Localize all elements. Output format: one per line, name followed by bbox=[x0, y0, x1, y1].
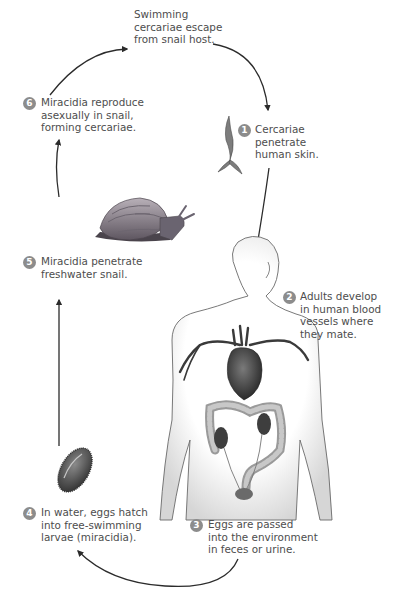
schistosoma-life-cycle-diagram: Swimming cercariae escape from snail hos… bbox=[0, 0, 394, 607]
kidney-left bbox=[214, 427, 228, 449]
step-4-badge: 4 bbox=[23, 507, 36, 520]
step-5-badge: 5 bbox=[23, 256, 36, 269]
intro-line: cercariae escape bbox=[134, 21, 222, 34]
step-2-label: Adults develop in human blood vessels wh… bbox=[300, 290, 381, 340]
arrow-3-to-4 bbox=[78, 551, 238, 586]
step-1-label: Cercariae penetrate human skin. bbox=[255, 123, 319, 161]
human-body-illustration bbox=[160, 236, 332, 520]
step-1-badge: 1 bbox=[238, 124, 251, 137]
step-6-label: Miracidia reproduce asexually in snail, … bbox=[41, 96, 144, 134]
step-6-badge: 6 bbox=[23, 97, 36, 110]
step-2-badge: 2 bbox=[283, 291, 296, 304]
intro-line: from snail host. bbox=[134, 33, 222, 46]
arrow-intro-to-1 bbox=[213, 44, 268, 110]
step-3-label: Eggs are passed into the environment in … bbox=[208, 518, 318, 556]
arrow-5-to-6 bbox=[57, 140, 60, 197]
step-3-badge: 3 bbox=[190, 519, 203, 532]
miracidium-illustration bbox=[51, 442, 99, 498]
step-4-label: In water, eggs hatch into free-swimming … bbox=[41, 506, 148, 544]
cercaria-illustration bbox=[218, 116, 242, 174]
bladder bbox=[235, 488, 253, 500]
step-5-label: Miracidia penetrate freshwater snail. bbox=[41, 255, 142, 280]
arrow-6-to-intro bbox=[50, 49, 127, 95]
intro-label: Swimming cercariae escape from snail hos… bbox=[134, 8, 222, 46]
snail-illustration bbox=[95, 198, 194, 241]
kidney-right bbox=[257, 413, 271, 435]
intro-line: Swimming bbox=[134, 8, 222, 21]
